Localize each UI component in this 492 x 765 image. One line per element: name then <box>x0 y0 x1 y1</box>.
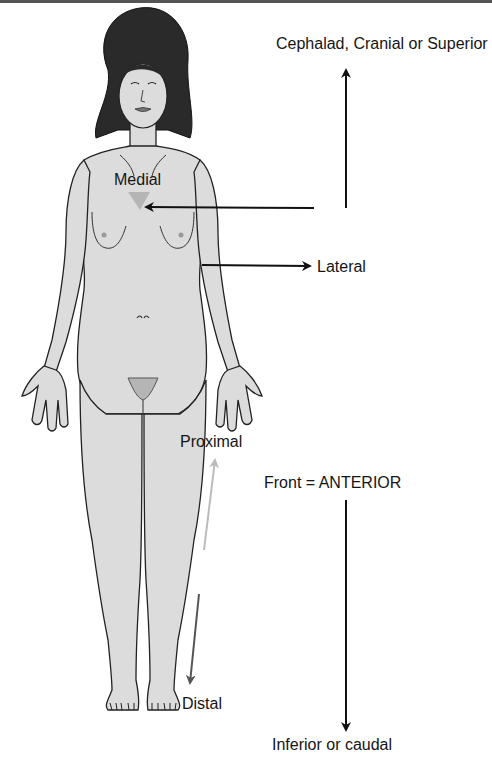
medial-arrow <box>146 207 314 208</box>
label-superior: Cephalad, Cranial or Superior <box>276 36 488 52</box>
distal-arrow <box>190 594 199 683</box>
lateral-arrow <box>202 265 310 266</box>
label-distal: Distal <box>182 696 222 712</box>
head <box>119 64 168 128</box>
label-inferior: Inferior or caudal <box>272 737 392 753</box>
label-medial: Medial <box>114 172 161 188</box>
anatomy-figure <box>0 0 492 765</box>
proximal-arrow <box>204 460 215 550</box>
label-lateral: Lateral <box>317 259 366 275</box>
label-anterior: Front = ANTERIOR <box>264 475 401 491</box>
label-proximal: Proximal <box>180 434 242 450</box>
